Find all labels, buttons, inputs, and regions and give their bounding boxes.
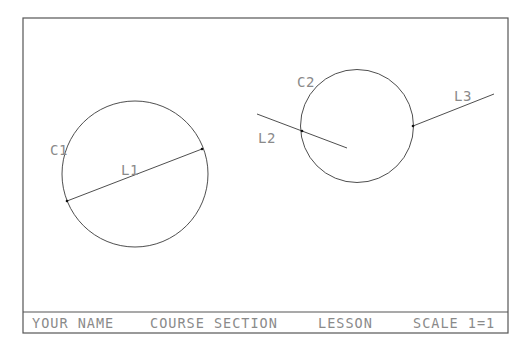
label-l2: L2	[258, 130, 276, 146]
label-c2: C2	[297, 74, 315, 90]
l2-circle-intersection	[301, 130, 304, 133]
l1-endpoint-left	[66, 200, 69, 203]
title-block-name: YOUR NAME	[32, 315, 114, 331]
title-block-lesson: LESSON	[318, 315, 373, 331]
circle-c2[interactable]	[301, 70, 414, 183]
title-block-course-section: COURSE SECTION	[150, 315, 278, 331]
l3-circle-intersection	[412, 125, 415, 128]
l1-endpoint-right	[201, 148, 204, 151]
label-l1: L1	[121, 162, 139, 178]
cad-drawing-canvas: C1 L1 C2 L2 L3 YOUR NAME COURSE SECTION …	[0, 0, 527, 348]
circle-c2-group: C2 L2 L3	[257, 70, 494, 183]
label-c1: C1	[50, 142, 68, 158]
circle-c1-group: C1 L1	[50, 101, 208, 247]
title-block-scale: SCALE 1=1	[413, 315, 495, 331]
label-l3: L3	[454, 88, 472, 104]
drawing-border	[23, 18, 508, 333]
title-block: YOUR NAME COURSE SECTION LESSON SCALE 1=…	[32, 315, 495, 331]
